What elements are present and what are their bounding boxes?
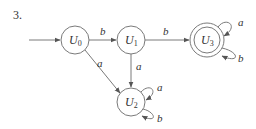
self-loop-label-u3-b: b: [238, 52, 244, 64]
state-u1: U1: [117, 26, 145, 54]
state-u2: U2: [117, 88, 145, 116]
edge-label-u1-u2: a: [136, 60, 142, 72]
problem-number: 3.: [13, 8, 22, 22]
edge-u0-u2: [85, 50, 120, 93]
self-loop-label-u2-b: b: [157, 112, 163, 124]
state-u0: U0: [61, 26, 89, 54]
self-loop-label-u3-a: a: [238, 16, 244, 28]
self-loop-u3-b: [222, 48, 236, 59]
self-loop-u2-b: [142, 109, 153, 119]
dfa-diagram: 3. b a b a a b a b U0 U1 U2 U3: [0, 0, 256, 129]
self-loop-label-u2-a: a: [157, 81, 163, 93]
edge-label-u1-u3: b: [163, 25, 169, 37]
state-u3-accepting: U3: [190, 23, 224, 57]
edge-label-u0-u2: a: [97, 57, 103, 69]
edge-label-u0-u1: b: [100, 25, 106, 37]
